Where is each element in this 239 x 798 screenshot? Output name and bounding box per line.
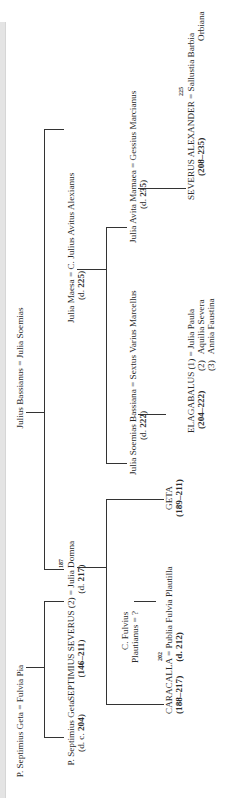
julia-avita-mamaea: Julia Avita Mamaea = Gessius Marcianus (… bbox=[128, 83, 148, 243]
publia-fulvia-plautilla: Publia Fulvia Plautilla bbox=[164, 566, 174, 648]
julia-soemias-senior: Julia Soemias bbox=[15, 307, 25, 358]
fulvia-pia: Fulvia Pia bbox=[15, 665, 25, 703]
marriage-year-202: 202 bbox=[157, 652, 163, 661]
connector-line bbox=[106, 227, 107, 464]
connector-line bbox=[44, 601, 64, 602]
geta-emperor: GETA (189–211) bbox=[164, 468, 184, 528]
aquilia-severa: Aquilia Severa bbox=[196, 299, 206, 354]
connector-line bbox=[138, 188, 186, 189]
connector-line bbox=[26, 667, 44, 668]
severus-alexander: SEVERUS ALEXANDER = Sallustia Barbia (20… bbox=[186, 0, 206, 200]
caracalla: CARACALLA = Publia Fulvia Plautilla (188… bbox=[164, 534, 184, 714]
family-tree-diagram: P. Septimius Geta = Fulvia Pia Julius Ba… bbox=[0, 0, 239, 798]
elagabalus: ELAGABALUS (1) = Julia Paula (204–222)(2… bbox=[186, 313, 216, 433]
connector-line bbox=[77, 269, 106, 270]
severus-name: SEPTIMIUS SEVERUS bbox=[66, 610, 76, 701]
connector-line bbox=[106, 499, 164, 500]
julia-domna: Julia Domna bbox=[66, 541, 76, 588]
julia-maesa: Julia Maesa = C. Julius Avitus Alexianus… bbox=[66, 173, 86, 323]
gessius-marcianus: Gessius Marcianus bbox=[128, 91, 138, 161]
connector-line bbox=[134, 601, 156, 602]
c-julius-avitus-alexianus: C. Julius Avitus Alexianus bbox=[66, 173, 76, 270]
connector-line bbox=[26, 412, 44, 413]
connector-line bbox=[138, 414, 166, 415]
c-fulvius-plautianus: C. Fulvius Plautianus = ? bbox=[120, 583, 140, 663]
connector-line bbox=[77, 567, 106, 568]
connector-line bbox=[44, 569, 64, 570]
julia-soemias-bassiana: Julia Soemias Bassiana = Sextus Varius M… bbox=[128, 295, 148, 475]
connector-line bbox=[106, 704, 164, 705]
couple-bassianus-soemias: Julius Bassianus = Julia Soemias bbox=[15, 293, 25, 443]
annia-faustina: Annia Faustina bbox=[206, 298, 216, 354]
julius-bassianus: Julius Bassianus bbox=[15, 368, 25, 429]
marriage-year-187: 187 bbox=[58, 559, 64, 568]
marriage-year-225: 225 bbox=[178, 87, 184, 96]
julia-paula: Julia Paula bbox=[186, 309, 196, 349]
connector-line bbox=[44, 737, 64, 738]
connector-line bbox=[106, 227, 127, 228]
septimius-severus: SEPTIMIUS SEVERUS (2) = Julia Domna (146… bbox=[66, 526, 86, 716]
sextus-varius-marcellus: Sextus Varius Marcellus bbox=[128, 290, 138, 379]
connector-line bbox=[106, 499, 107, 705]
connector-line bbox=[44, 601, 45, 738]
connector-line bbox=[106, 463, 127, 464]
sallustia-barbia-orbiana: Sallustia Barbia bbox=[186, 33, 196, 91]
couple-geta-fulvia: P. Septimius Geta = Fulvia Pia bbox=[15, 646, 25, 796]
connector-line bbox=[44, 129, 64, 130]
connector-line bbox=[44, 129, 45, 570]
p-septimius-geta-senior: P. Septimius Geta bbox=[15, 712, 25, 777]
